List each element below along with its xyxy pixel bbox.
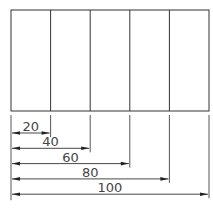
dimension-label: 20: [23, 119, 40, 134]
outer-rectangle: [11, 10, 209, 111]
arrowhead-left: [12, 177, 20, 181]
arrowhead-left: [12, 147, 20, 151]
dimension-lines: 20406080100: [12, 119, 208, 196]
dimension-label: 60: [62, 150, 79, 165]
dimension-label: 40: [42, 134, 59, 149]
strip-dividers: [51, 10, 170, 111]
dimension-diagram: 20406080100: [0, 0, 213, 212]
arrowhead-left: [12, 131, 20, 135]
arrowhead-right: [160, 177, 168, 181]
dimension-label: 80: [82, 165, 99, 180]
arrowhead-right: [81, 147, 89, 151]
arrowhead-left: [12, 162, 20, 166]
arrowhead-right: [121, 162, 129, 166]
dimension-label: 100: [98, 180, 123, 195]
arrowhead-left: [12, 192, 20, 196]
arrowhead-right: [200, 192, 208, 196]
